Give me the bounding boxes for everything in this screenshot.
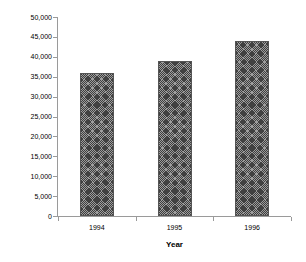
x-axis-tick-label: 1996 [213,224,291,232]
x-axis-tick-labels: 199419951996 [0,0,306,262]
x-axis-title: Year [58,240,291,250]
bar-chart: Number vicuñas 50,00045,00040,00035,0003… [0,0,306,262]
x-axis-tick-label: 1995 [136,224,214,232]
x-axis-tick-label: 1994 [58,224,136,232]
